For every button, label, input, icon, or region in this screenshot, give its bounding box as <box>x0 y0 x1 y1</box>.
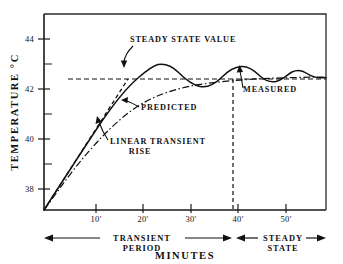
ytick-label-42: 42 <box>25 84 34 94</box>
range-transient-right-arrow <box>223 235 232 242</box>
annotation-measured: MEASURED <box>243 85 297 94</box>
arrowhead-steady-state-value <box>121 61 127 69</box>
ytick-label-38: 38 <box>25 184 34 194</box>
arrowhead-predicted <box>121 97 128 103</box>
annotation-predicted: PREDICTED <box>141 103 197 112</box>
xtick-label-10: 10' <box>91 214 102 224</box>
annotation-linear-transient-rise-line2: RISE <box>129 147 152 156</box>
y-axis-ticks <box>38 39 52 189</box>
range-steady-state: STEADY STATE <box>236 234 326 253</box>
y-axis-title: TEMPERATURE °C <box>9 53 20 171</box>
range-steady-left-arrow <box>236 235 245 242</box>
annotation-steady-state-value: STEADY STATE VALUE <box>130 35 236 44</box>
xtick-label-40: 40' <box>233 214 244 224</box>
xtick-label-50: 50' <box>281 214 292 224</box>
range-transient-left-arrow <box>44 235 53 242</box>
xtick-label-20: 20' <box>138 214 149 224</box>
leader-predicted <box>126 101 139 107</box>
leader-linear-transient-rise <box>99 122 108 140</box>
xtick-label-30: 30' <box>186 214 197 224</box>
range-label-steady-line1: STEADY <box>263 234 303 243</box>
range-steady-right-arrow <box>317 235 326 242</box>
temperature-transient-chart: 44 42 40 38 TEMPERATURE °C 10' 20' 30' 4… <box>0 0 343 264</box>
annotation-linear-transient-rise-line1: LINEAR TRANSIENT <box>110 137 206 146</box>
chart-figure: 44 42 40 38 TEMPERATURE °C 10' 20' 30' 4… <box>0 0 343 264</box>
range-label-steady-line2: STATE <box>267 244 298 253</box>
range-label-transient-line1: TRANSIENT <box>113 234 171 243</box>
leader-steady-state-value <box>124 46 133 63</box>
ytick-label-40: 40 <box>25 134 34 144</box>
ytick-label-44: 44 <box>25 34 35 44</box>
x-axis-ticks <box>96 204 286 213</box>
x-axis-title: MINUTES <box>155 250 215 261</box>
